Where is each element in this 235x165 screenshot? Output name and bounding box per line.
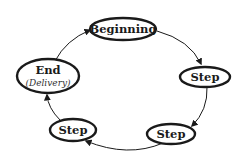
diagram-svg: Beginning Step Step Step End (Delivery) — [0, 0, 235, 165]
edge-step2-to-step3 — [86, 141, 163, 150]
node-label: End — [35, 63, 60, 77]
edge-step3-to-end — [47, 95, 60, 120]
node-label: Beginning — [90, 22, 157, 36]
node-label: Step — [157, 127, 186, 141]
node-step-1: Step — [180, 67, 230, 87]
node-sublabel: (Delivery) — [25, 78, 71, 88]
edge-step1-to-step2 — [192, 87, 207, 126]
node-beginning: Beginning — [90, 18, 157, 40]
node-end: End (Delivery) — [17, 59, 79, 93]
node-step-2: Step — [147, 124, 195, 144]
edge-end-to-beginning — [55, 30, 90, 61]
node-label: Step — [191, 70, 220, 84]
cycle-diagram: Beginning Step Step Step End (Delivery) — [0, 0, 235, 165]
node-step-3: Step — [50, 119, 96, 141]
node-label: Step — [59, 123, 88, 137]
edge-beginning-to-step1 — [157, 31, 201, 64]
